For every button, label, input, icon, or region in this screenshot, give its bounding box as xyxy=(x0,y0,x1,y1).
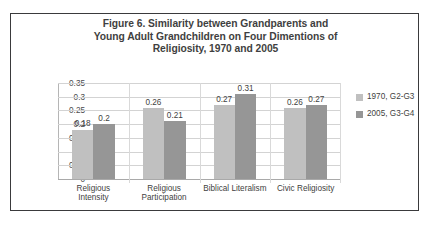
bar-2005-religious-participation[interactable] xyxy=(164,121,185,179)
bar-2005-religious-intensity[interactable] xyxy=(93,124,114,179)
category-separator-1 xyxy=(129,83,130,183)
bar-group-religious-participation: 0.26 0.21 xyxy=(143,83,186,179)
x-axis-category-religious-intensity: Religious Intensity xyxy=(58,184,129,203)
bar-label-1970-civic-religiosity: 0.26 xyxy=(287,99,303,107)
bar-2005-biblical-literalism[interactable] xyxy=(235,94,256,179)
figure-frame: Figure 6. Similarity between Grandparent… xyxy=(10,13,419,211)
legend-label-2005: 2005, G3-G4 xyxy=(367,110,414,118)
bar-2005-civic-religiosity[interactable] xyxy=(306,105,327,179)
bar-label-1970-religious-intensity: 0.18 xyxy=(75,120,91,128)
bar-1970-civic-religiosity[interactable] xyxy=(284,108,305,179)
x-axis-category-line-1: Religious xyxy=(129,184,200,193)
bar-label-1970-religious-participation: 0.26 xyxy=(145,99,161,107)
bar-group-religious-intensity: 0.18 0.2 xyxy=(72,83,115,179)
plot-area: 0.18 0.2 0.26 0.21 0.27 0.31 0.2 xyxy=(58,83,341,179)
bar-group-civic-religiosity: 0.26 0.27 xyxy=(284,83,327,179)
bar-group-biblical-literalism: 0.27 0.31 xyxy=(214,83,257,179)
legend-swatch-icon-2005 xyxy=(356,111,363,118)
plot-right-edge xyxy=(340,83,341,183)
legend-swatch-icon-1970 xyxy=(356,94,363,101)
legend-item-1970[interactable]: 1970, G2-G3 xyxy=(356,93,418,101)
x-axis-category-line-2: Intensity xyxy=(58,193,129,202)
legend-item-2005[interactable]: 2005, G3-G4 xyxy=(356,110,418,118)
bar-1970-religious-intensity[interactable] xyxy=(72,130,93,179)
bar-label-2005-biblical-literalism: 0.31 xyxy=(238,85,254,93)
bar-label-2005-religious-intensity: 0.2 xyxy=(98,115,109,123)
x-axis-category-religious-participation: Religious Participation xyxy=(129,184,200,203)
category-separator-2 xyxy=(200,83,201,183)
x-axis-category-line-1: Civic Religiosity xyxy=(270,184,341,193)
x-axis-category-line-1: Religious xyxy=(58,184,129,193)
chart-plot-wrapper: 0.35 0.3 0.25 0.2 0.15 0.1 0.05 0 xyxy=(11,14,420,212)
category-separator-3 xyxy=(270,83,271,183)
bar-1970-biblical-literalism[interactable] xyxy=(214,105,235,179)
chart-legend: 1970, G2-G3 2005, G3-G4 xyxy=(356,93,418,127)
x-axis-category-civic-religiosity: Civic Religiosity xyxy=(270,184,341,193)
x-axis-category-biblical-literalism: Biblical Literalism xyxy=(200,184,271,193)
legend-label-1970: 1970, G2-G3 xyxy=(367,93,414,101)
bar-label-2005-religious-participation: 0.21 xyxy=(167,112,183,120)
bar-label-1970-biblical-literalism: 0.27 xyxy=(216,96,232,104)
x-axis-category-line-2: Participation xyxy=(129,193,200,202)
bar-1970-religious-participation[interactable] xyxy=(143,108,164,179)
x-axis-category-line-1: Biblical Literalism xyxy=(200,184,271,193)
bar-label-2005-civic-religiosity: 0.27 xyxy=(308,96,324,104)
